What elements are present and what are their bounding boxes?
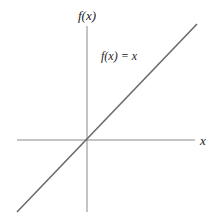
plot-area: f(x) x f(x) = x xyxy=(0,0,217,222)
x-axis-label: x xyxy=(199,133,206,148)
y-axis-label: f(x) xyxy=(78,8,96,23)
function-annotation: f(x) = x xyxy=(101,49,138,63)
